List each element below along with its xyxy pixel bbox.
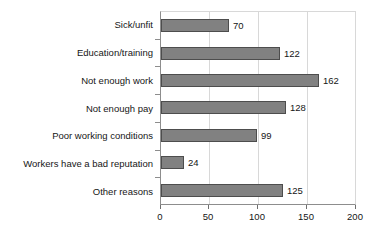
bar-value-label: 99: [261, 130, 272, 141]
x-axis-tick-label: 0: [157, 211, 162, 222]
bar-value-label: 125: [287, 185, 303, 196]
bar-row: 99: [161, 122, 355, 149]
bar-value-label: 162: [323, 75, 339, 86]
x-axis-tick-label: 100: [249, 211, 265, 222]
bar-row: 122: [161, 39, 355, 66]
bar-chart: Sick/unfit Education/training Not enough…: [0, 0, 387, 239]
bar-row: 128: [161, 94, 355, 121]
x-axis: 0 50 100 150 200: [160, 205, 356, 235]
x-axis-tick-label: 200: [347, 211, 363, 222]
category-label: Not enough pay: [86, 103, 153, 114]
bar-row: 70: [161, 12, 355, 39]
category-slot: Not enough work: [0, 66, 156, 94]
bar[interactable]: [161, 129, 257, 142]
bar-series: 70 122 162 128 99 24: [161, 12, 355, 204]
category-slot: Workers have a bad reputation: [0, 150, 156, 178]
bar-value-label: 128: [290, 102, 306, 113]
bar-value-label: 122: [284, 48, 300, 59]
bar-value-label: 70: [233, 20, 244, 31]
category-label: Sick/unfit: [114, 19, 153, 30]
bar[interactable]: [161, 156, 184, 169]
bar[interactable]: [161, 184, 283, 197]
bar-row: 162: [161, 67, 355, 94]
x-axis-tick: [306, 205, 307, 209]
bar[interactable]: [161, 19, 229, 32]
bar-row: 125: [161, 177, 355, 204]
x-axis-tick: [355, 205, 356, 209]
bar[interactable]: [161, 74, 319, 87]
category-slot: Sick/unfit: [0, 11, 156, 39]
category-label: Education/training: [77, 47, 153, 58]
category-slot: Education/training: [0, 39, 156, 67]
category-label: Workers have a bad reputation: [23, 158, 153, 169]
category-label: Not enough work: [81, 75, 153, 86]
x-axis-tick: [208, 205, 209, 209]
bar-value-label: 24: [188, 157, 199, 168]
bar[interactable]: [161, 47, 280, 60]
bar[interactable]: [161, 101, 286, 114]
bar-row: 24: [161, 149, 355, 176]
category-slot: Not enough pay: [0, 94, 156, 122]
category-slot: Other reasons: [0, 177, 156, 205]
x-axis-tick: [257, 205, 258, 209]
plot-area: 70 122 162 128 99 24: [160, 11, 356, 205]
x-axis-tick-label: 150: [298, 211, 314, 222]
category-label: Other reasons: [93, 186, 153, 197]
category-axis-labels: Sick/unfit Education/training Not enough…: [0, 11, 156, 205]
x-axis-tick-label: 50: [203, 211, 214, 222]
x-axis-tick: [160, 205, 161, 209]
category-slot: Poor working conditions: [0, 122, 156, 150]
category-label: Poor working conditions: [52, 130, 153, 141]
